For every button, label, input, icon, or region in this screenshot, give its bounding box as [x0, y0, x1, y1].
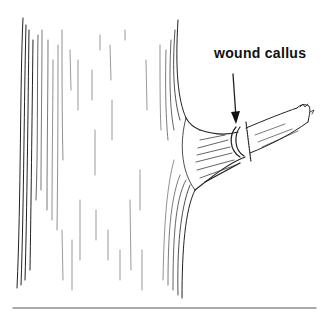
trunk-left-edge: [17, 18, 63, 288]
arrow-icon: [231, 74, 240, 124]
wound-callus-label: wound callus: [214, 45, 306, 61]
tree-illustration: wound callus: [0, 0, 330, 313]
wound-callus: [231, 122, 251, 162]
trunk-bark-marks: [62, 30, 147, 290]
trunk-right-edge: [160, 20, 195, 298]
collar-hatching: [196, 135, 240, 182]
branch-stub: [246, 104, 314, 153]
